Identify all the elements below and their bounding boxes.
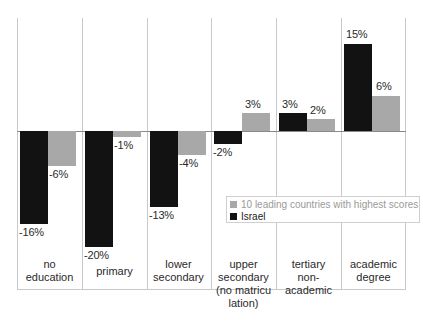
bar-value-label: -20% [84,249,109,261]
bar-group: 3% 2% [276,18,341,290]
legend-label: Israel [241,211,265,222]
category-label-academic-degree: academic degree [341,258,406,284]
chart-legend: 10 leading countries with highest scores… [226,196,420,223]
bar-israel [279,113,307,131]
category-label-tertiary: tertiary non- academic [276,258,341,297]
bar-group: -16% -6% [17,18,82,290]
legend-entry: 10 leading countries with highest scores [230,199,416,210]
bar-group: 15% 6% [341,18,405,290]
bar-value-label: 6% [376,80,392,92]
bar-value-label: 3% [282,98,298,110]
category-label-primary: primary [82,265,147,278]
bar-israel [344,44,372,131]
bar-leading [372,96,400,131]
bar-israel [214,131,242,144]
bar-leading [242,113,270,131]
bar-group: -13% -4% [147,18,211,290]
legend-swatch-icon [230,213,237,220]
bar-chart: -16% -6% -20% -1% -13% -4% -2% 3% [0,0,423,322]
legend-label: 10 leading countries with highest scores [241,199,418,210]
bar-value-label: -4% [179,157,198,169]
bar-leading [48,131,76,166]
bar-value-label: -13% [149,209,174,221]
bar-value-label: -2% [213,146,232,158]
bar-value-label: 15% [346,28,367,40]
legend-swatch-icon [230,201,237,208]
legend-entry: Israel [230,211,416,222]
category-label-lower-secondary: lower secondary [146,258,211,284]
bar-group: -2% 3% [211,18,276,290]
category-label-upper-secondary: upper secondary (no matricu lation) [211,258,276,310]
bar-israel [85,131,113,247]
axis-separator-line [405,18,406,290]
bar-value-label: -16% [19,226,44,238]
bar-group: -20% -1% [82,18,147,290]
bar-value-label: -6% [49,168,68,180]
bar-leading [178,131,206,155]
plot-area: -16% -6% -20% -1% -13% -4% -2% 3% [17,18,406,290]
bar-leading [307,119,335,131]
bar-value-label: 2% [310,104,326,116]
category-label-no-education: no education [17,258,82,284]
bar-value-label: 3% [245,98,261,110]
bar-leading [113,131,141,137]
bar-israel [150,131,178,207]
bar-israel [20,131,48,224]
bar-value-label: -1% [114,139,133,151]
